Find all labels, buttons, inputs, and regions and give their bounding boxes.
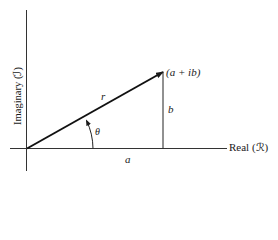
imaginary-component-label-b: b	[168, 104, 174, 115]
y-axis-label: Imaginary (ℐ)	[11, 67, 23, 125]
x-axis-label: Real (ℛ)	[229, 142, 268, 153]
vector-label-r: r	[101, 91, 105, 102]
theta-arc	[87, 121, 94, 149]
real-component-label-a: a	[125, 154, 131, 165]
tip-label: (a + ib)	[166, 67, 200, 78]
angle-label-theta: θ	[95, 127, 100, 137]
vector-r	[27, 72, 163, 149]
